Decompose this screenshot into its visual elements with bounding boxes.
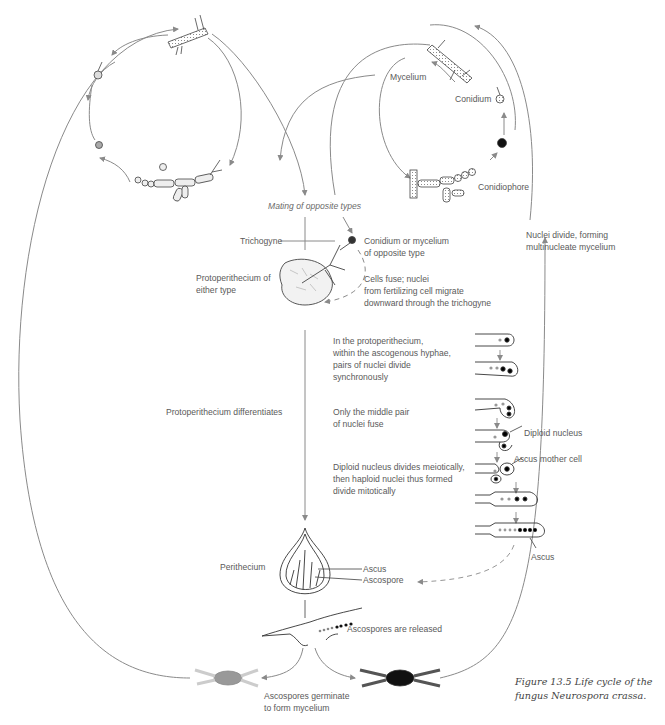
figure-caption-line2: fungus Neurospora crassa. [515,689,646,703]
left-asexual-cycle [19,29,305,678]
label-conidiophore: Conidiophore [478,181,529,193]
label-step1-2: within the ascogenous hyphae, [333,347,451,359]
label-step3-1: Diploid nucleus divides meiotically, [333,461,465,473]
germination-arrows [262,648,355,678]
germinating-spore-right [360,670,440,686]
label-step2-1: Only the middle pair [333,406,409,418]
protoperithecium-drawing [280,237,356,306]
label-step1-3: pairs of nuclei divide [333,359,411,371]
label-nuclei-divide-2: multinucleate mycelium [526,241,615,253]
label-protoperithecium-differentiates: Protoperithecium differentiates [166,406,282,418]
left-conidiophore-drawing [135,160,222,202]
left-mycelium-drawing [168,15,208,55]
label-protoperithecium-2: either type [196,284,236,296]
label-protoperithecium-1: Protoperithecium of [196,272,271,284]
label-step3-3: divide mitotically [333,485,396,497]
right-conidium-drawing [496,87,507,148]
label-diploid-nucleus: Diploid nucleus [524,427,582,439]
label-trichogyne: Trichogyne [240,235,282,247]
left-conidium-drawing [94,62,103,149]
figure-caption-line1: Figure 13.5 Life cycle of the [515,675,653,689]
label-ascus-bottom: Ascus [531,551,554,563]
right-conidiophore-drawing [410,169,476,203]
label-ascospores-released: Ascospores are released [347,623,442,635]
label-step1-4: synchronously [333,371,388,383]
label-step3-2: then haploid nuclei thus formed [333,473,452,485]
label-ascospore: Ascospore [363,574,404,586]
label-step2-2: of nuclei fuse [333,418,384,430]
label-germinate-2: to form mycelium [264,702,329,714]
label-germinate-1: Ascospores germinate [264,690,350,702]
label-ascus-mother-cell: Ascus mother cell [514,453,582,465]
label-conidium: Conidium [455,93,491,105]
label-mycelium: Mycelium [390,71,426,83]
label-cells-fuse-2: from fertilizing cell migrate [364,285,464,297]
label-cells-fuse-3: downward through the trichogyne [364,297,491,309]
label-mating-of-opposite-types: Mating of opposite types [268,200,361,212]
label-conidium-or-mycelium-1: Conidium or mycelium [364,235,449,247]
germinating-spore-left [195,670,258,686]
label-step1-1: In the protoperithecium, [333,335,423,347]
label-perithecium: Perithecium [220,561,265,573]
label-conidium-or-mycelium-2: of opposite type [364,247,425,259]
label-cells-fuse-1: Cells fuse; nuclei [364,273,429,285]
label-nuclei-divide-1: Nuclei divide, forming [526,229,608,241]
